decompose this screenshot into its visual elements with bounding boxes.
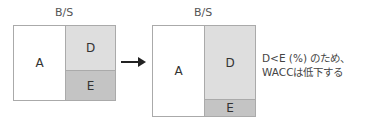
after-debt-cell: D [204,26,255,99]
after-bs-title: B/S [173,6,233,19]
before-balance-sheet: A D E [13,25,116,101]
before-equity-cell: E [65,70,115,100]
after-equity-cell: E [204,99,255,116]
arrow-right-icon [121,56,147,68]
after-balance-sheet: A D E [152,25,256,117]
note-line-2: WACCは低下する [262,65,350,79]
note-line-1: D<E (%) のため、 [262,51,350,65]
after-asset-cell: A [153,26,204,116]
before-asset-cell: A [14,26,65,100]
before-debt-cell: D [65,26,115,70]
before-bs-title: B/S [34,6,94,19]
explanation-note: D<E (%) のため、 WACCは低下する [262,51,350,79]
